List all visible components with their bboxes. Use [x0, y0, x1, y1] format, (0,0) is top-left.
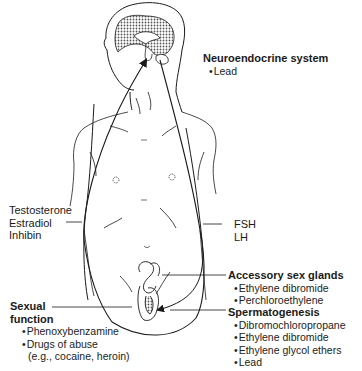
hormone-axis-lines — [84, 60, 204, 335]
hormone-inhibin: Inhibin — [9, 229, 72, 242]
neuroendocrine-label: Neuroendocrine system Lead — [203, 52, 328, 77]
neuroendocrine-heading: Neuroendocrine system — [203, 52, 328, 65]
spermatogenesis-item: Ethylene dibromide — [228, 331, 346, 344]
sexual-function-heading-1: Sexual — [10, 300, 130, 313]
right-hormones-label: FSH LH — [234, 218, 256, 243]
hormone-lh: LH — [234, 231, 256, 244]
sexual-function-item: Drugs of abuse — [16, 338, 130, 351]
accessory-glands-label: Accessory sex glands Ethylene dibromide … — [228, 269, 344, 307]
neuroendocrine-item: Lead — [203, 65, 328, 78]
sexual-function-item-note: (e.g., cocaine, heroin) — [16, 350, 130, 363]
accessory-item: Perchloroethylene — [228, 294, 344, 307]
left-hormones-label: Testosterone Estradiol Inhibin — [9, 204, 72, 242]
brain — [115, 15, 174, 64]
accessory-heading: Accessory sex glands — [228, 269, 344, 282]
sexual-function-label: Sexual function Phenoxybenzamine Drugs o… — [10, 300, 130, 363]
hormone-fsh: FSH — [234, 218, 256, 231]
hormone-estradiol: Estradiol — [9, 217, 72, 230]
accessory-item: Ethylene dibromide — [228, 282, 344, 295]
sexual-function-item: Phenoxybenzamine — [16, 325, 130, 338]
reproductive-organs — [138, 262, 160, 321]
spermatogenesis-item: Ethylene glycol ethers — [228, 344, 346, 357]
spermatogenesis-label: Spermatogenesis Dibromochloropropane Eth… — [228, 306, 346, 369]
hormone-testosterone: Testosterone — [9, 204, 72, 217]
sexual-function-heading-2: function — [10, 313, 130, 326]
spermatogenesis-item: Dibromochloropropane — [228, 319, 346, 332]
spermatogenesis-heading: Spermatogenesis — [228, 306, 346, 319]
spermatogenesis-item: Lead — [228, 356, 346, 369]
